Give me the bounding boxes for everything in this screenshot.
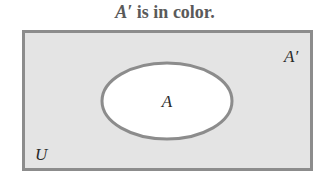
- complement-label: A′: [283, 47, 298, 66]
- venn-diagram: A A′ U: [0, 0, 328, 179]
- set-a-label: A: [161, 92, 173, 111]
- universe-label: U: [35, 145, 49, 164]
